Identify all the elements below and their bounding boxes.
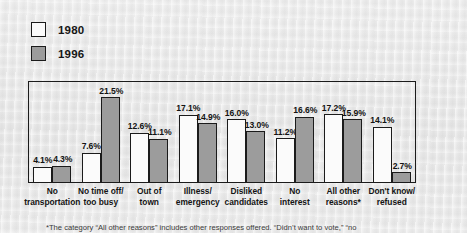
bar-value-label: 15.9%	[340, 108, 367, 118]
bar-group: 7.6%21.5%	[82, 81, 120, 183]
legend-item-1980: 1980	[31, 20, 84, 39]
bar-1996-1	[101, 97, 120, 183]
bar-1996-5	[295, 117, 314, 183]
bar-group: 16.0%13.0%	[227, 81, 265, 183]
category-label-7: Don't know/refused	[362, 186, 423, 207]
bar-value-label: 13.0%	[243, 120, 270, 130]
bar-1980-3	[179, 115, 198, 183]
bar-value-label: 21.5%	[98, 86, 125, 96]
bar-group: 11.2%16.6%	[276, 81, 314, 183]
bar-group: 14.1%2.7%	[373, 81, 411, 183]
bar-1996-0	[52, 166, 71, 183]
bar-group: 4.1%4.3%	[33, 81, 71, 183]
bar-value-label: 2.7%	[389, 161, 416, 171]
chart-category-axis: NotransportationNo time off/too busyOut …	[28, 186, 416, 210]
bar-value-label: 16.6%	[292, 105, 319, 115]
chart-legend: 1980 1996	[31, 20, 84, 68]
chart-footnote: *The category “All other reasons” includ…	[46, 223, 466, 232]
bar-1980-6	[324, 114, 343, 183]
legend-swatch-1996-icon	[31, 46, 46, 61]
category-label-line: refused	[362, 197, 423, 208]
bar-1996-2	[149, 139, 168, 183]
bar-value-label: 16.0%	[223, 108, 250, 118]
bar-1980-5	[276, 138, 295, 183]
legend-label-1980: 1980	[58, 24, 84, 36]
bar-1996-6	[343, 119, 362, 183]
bar-group: 17.1%14.9%	[179, 81, 217, 183]
bar-value-label: 4.3%	[49, 154, 76, 164]
bar-1980-0	[33, 167, 52, 183]
bar-1996-3	[198, 123, 217, 183]
chart-plot-area: 4.1%4.3%7.6%21.5%12.6%11.1%17.1%14.9%16.…	[28, 81, 416, 183]
bar-1996-4	[246, 131, 265, 183]
legend-swatch-1980-icon	[31, 22, 46, 37]
legend-item-1996: 1996	[31, 44, 84, 63]
bar-1980-1	[82, 153, 101, 183]
bar-group: 12.6%11.1%	[130, 81, 168, 183]
legend-label-1996: 1996	[58, 48, 84, 60]
bar-1996-7	[392, 172, 411, 183]
category-label-line: Don't know/	[362, 186, 423, 197]
bar-1980-7	[373, 127, 392, 183]
bar-value-label: 14.9%	[195, 112, 222, 122]
bar-value-label: 14.1%	[369, 115, 396, 125]
bar-1980-2	[130, 133, 149, 183]
bar-group: 17.2%15.9%	[324, 81, 362, 183]
bar-value-label: 11.1%	[146, 127, 173, 137]
